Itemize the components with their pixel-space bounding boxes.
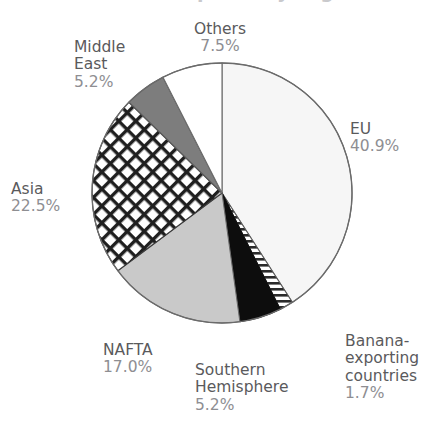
- slice-label-middle-east: Middle East 5.2%: [74, 21, 166, 109]
- slice-label-eu-percent: 40.9%: [350, 138, 430, 156]
- slice-label-southern-hemisphere-name: Southern Hemisphere: [195, 361, 288, 397]
- slice-label-middle-east-percent: 5.2%: [74, 74, 166, 92]
- slice-label-eu-name: EU: [350, 120, 371, 138]
- slice-label-banana-exporting-countries-name: Banana- exporting countries: [345, 332, 419, 385]
- slice-label-asia-name: Asia: [11, 180, 43, 198]
- slice-label-southern-hemisphere: Southern Hemisphere 5.2%: [195, 344, 317, 422]
- pie-chart-figure: World banana imports by region Others 7.…: [0, 0, 432, 422]
- slice-label-nafta-name: NAFTA: [103, 341, 153, 359]
- slice-label-nafta-percent: 17.0%: [103, 359, 195, 377]
- slice-label-asia: Asia 22.5%: [11, 163, 93, 233]
- slice-label-others-name: Others: [194, 20, 246, 38]
- slice-label-eu: EU 40.9%: [350, 103, 430, 173]
- slice-label-banana-exporting-countries-percent: 1.7%: [345, 385, 432, 403]
- slice-label-asia-percent: 22.5%: [11, 198, 93, 216]
- slice-label-nafta: NAFTA 17.0%: [103, 324, 195, 394]
- slice-label-others: Others 7.5%: [166, 3, 274, 73]
- slice-label-middle-east-name: Middle East: [74, 38, 125, 74]
- slice-label-banana-exporting-countries: Banana- exporting countries 1.7%: [345, 315, 432, 420]
- slice-label-others-percent: 7.5%: [166, 38, 274, 56]
- slice-label-southern-hemisphere-percent: 5.2%: [195, 397, 317, 415]
